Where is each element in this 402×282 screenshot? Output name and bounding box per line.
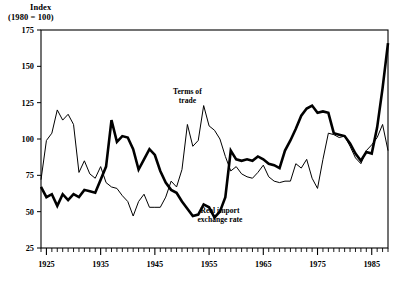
x-tick-label: 1975 — [309, 260, 326, 269]
x-tick-label: 1955 — [201, 260, 218, 269]
x-axis-ticks: 1925193519451955196519751985 — [38, 260, 380, 269]
y-tick-label: 175 — [22, 26, 34, 35]
terms-of-trade-label: Terms of — [173, 87, 202, 96]
x-tick-label: 1945 — [147, 260, 164, 269]
data-series-group — [41, 43, 388, 217]
y-tick-label: 50 — [26, 208, 34, 217]
series-line-terms-of-trade — [41, 106, 388, 216]
y-tick-label: 125 — [22, 99, 34, 108]
chart-svg: 255075100125150175 192519351945195519651… — [0, 0, 402, 282]
x-tick-label: 1985 — [363, 260, 380, 269]
y-tick-label: 100 — [22, 135, 34, 144]
y-axis-ticks: 255075100125150175 — [22, 26, 41, 253]
x-tick-label: 1965 — [255, 260, 272, 269]
x-axis-minor-ticks — [41, 248, 388, 255]
y-tick-label: 25 — [26, 244, 34, 253]
real-import-exchange-rate-label-line2: exchange rate — [197, 215, 243, 224]
real-import-exchange-rate-label: Real import — [200, 206, 239, 215]
x-tick-label: 1935 — [92, 260, 109, 269]
terms-of-trade-chart: Index (1980 = 100) 255075100125150175 19… — [0, 0, 402, 282]
y-tick-label: 150 — [22, 62, 34, 71]
y-tick-label: 75 — [26, 171, 34, 180]
terms-of-trade-label-line2: trade — [179, 96, 197, 105]
x-tick-label: 1925 — [38, 260, 55, 269]
